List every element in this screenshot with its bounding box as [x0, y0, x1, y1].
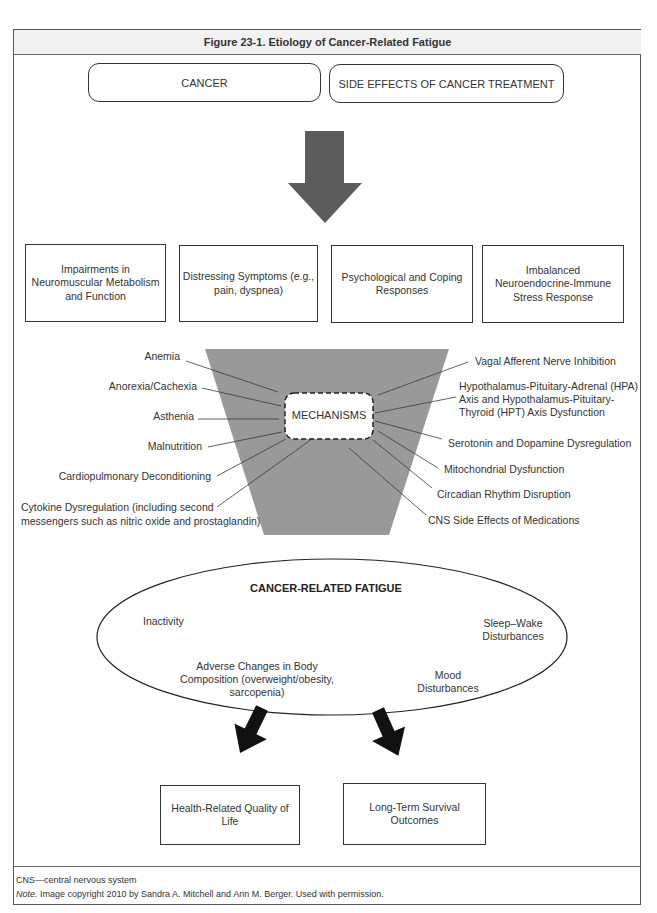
- label-line: Hypothalamus-Pituitary-Adrenal (HPA): [459, 380, 638, 393]
- mechanism-cytokine: Cytokine Dysregulation (including second…: [21, 500, 260, 528]
- factor-line: Neuromuscular Metabolism: [32, 276, 160, 290]
- factor-box-psychological: Psychological and Coping Responses: [331, 245, 473, 323]
- factor-box-neuromuscular: Impairments in Neuromuscular Metabolism …: [25, 244, 166, 322]
- label-line: messengers such as nitric oxide and pros…: [21, 514, 260, 528]
- mechanism-anorexia-cachexia: Anorexia/Cachexia: [109, 380, 197, 393]
- factor-line: Distressing Symptoms (e.g.,: [183, 270, 314, 284]
- fatigue-title: CANCER-RELATED FATIGUE: [226, 582, 426, 594]
- footer-abbreviation: CNS—central nervous system: [16, 874, 137, 886]
- label-line: Composition (overweight/obesity,: [167, 673, 347, 686]
- mechanism-mitochondrial: Mitochondrial Dysfunction: [444, 463, 564, 476]
- footer-divider: [14, 866, 641, 867]
- mechanism-malnutrition: Malnutrition: [148, 440, 202, 453]
- mechanism-cardiopulmonary: Cardiopulmonary Deconditioning: [59, 470, 211, 483]
- figure-page: Figure 23-1. Etiology of Cancer-Related …: [0, 0, 657, 913]
- outcome-line: Outcomes: [391, 814, 439, 828]
- label-line: sarcopenia): [167, 686, 347, 699]
- label-line: Thyroid (HPT) Axis Dysfunction: [459, 406, 638, 419]
- outcome-line: Health-Related Quality of: [171, 802, 288, 816]
- label-line: Sleep–Wake: [453, 617, 573, 630]
- mechanism-anemia: Anemia: [144, 350, 180, 363]
- factor-box-distressing-symptoms: Distressing Symptoms (e.g., pain, dyspne…: [179, 245, 318, 322]
- mechanism-circadian: Circadian Rhythm Disruption: [437, 488, 571, 501]
- factor-line: Stress Response: [513, 291, 593, 305]
- fatigue-item-body-composition: Adverse Changes in Body Composition (ove…: [167, 660, 347, 699]
- note-label: Note.: [16, 889, 38, 899]
- mechanism-cns-side-effects: CNS Side Effects of Medications: [428, 514, 580, 527]
- factor-line: Impairments in: [61, 263, 130, 277]
- footer-note: Note. Image copyright 2010 by Sandra A. …: [16, 888, 384, 900]
- mechanism-serotonin-dopamine: Serotonin and Dopamine Dysregulation: [448, 437, 631, 450]
- mechanism-hpa-hpt: Hypothalamus-Pituitary-Adrenal (HPA) Axi…: [459, 380, 638, 419]
- factor-line: Psychological and Coping: [342, 271, 463, 285]
- fatigue-item-sleep-wake: Sleep–Wake Disturbances: [453, 617, 573, 643]
- mechanisms-label: MECHANISMS: [279, 409, 379, 421]
- figure-title: Figure 23-1. Etiology of Cancer-Related …: [14, 30, 641, 55]
- outcome-box-survival: Long-Term Survival Outcomes: [343, 783, 486, 845]
- label-line: Mood: [398, 669, 498, 682]
- note-text: Image copyright 2010 by Sandra A. Mitche…: [38, 889, 384, 899]
- outcome-box-quality-of-life: Health-Related Quality of Life: [160, 785, 300, 845]
- label-line: Cytokine Dysregulation (including second: [21, 500, 260, 514]
- mechanism-asthenia: Asthenia: [153, 410, 194, 423]
- factor-line: and Function: [65, 290, 126, 304]
- label-line: Disturbances: [398, 682, 498, 695]
- outcome-line: Life: [222, 815, 239, 829]
- factor-line: Imbalanced: [526, 264, 580, 278]
- source-box-cancer: CANCER: [88, 63, 321, 102]
- factor-box-neuroendocrine: Imbalanced Neuroendocrine-Immune Stress …: [482, 245, 624, 323]
- label-line: Axis and Hypothalamus-Pituitary-: [459, 393, 638, 406]
- fatigue-item-inactivity: Inactivity: [143, 615, 184, 628]
- factor-line: Responses: [376, 284, 429, 298]
- label-line: Adverse Changes in Body: [167, 660, 347, 673]
- label-line: Disturbances: [453, 630, 573, 643]
- factor-line: Neuroendocrine-Immune: [495, 277, 611, 291]
- outcome-line: Long-Term Survival: [369, 801, 459, 815]
- source-box-treatment-side-effects: SIDE EFFECTS OF CANCER TREATMENT: [329, 64, 564, 103]
- fatigue-item-mood: Mood Disturbances: [398, 669, 498, 695]
- mechanism-vagal: Vagal Afferent Nerve Inhibition: [475, 355, 616, 368]
- factor-line: pain, dyspnea): [214, 284, 283, 298]
